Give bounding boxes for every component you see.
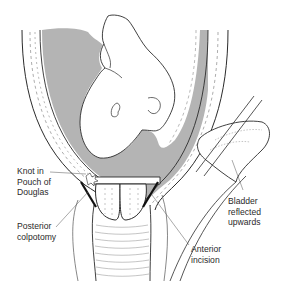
leader-posterior (56, 192, 88, 227)
outer-pelvis-right (162, 195, 168, 281)
cervix-right-lobe (120, 184, 146, 220)
vaginal-rugae (95, 225, 149, 276)
vagina-right-wall (150, 205, 151, 281)
label-posterior-colpotomy: Posterior colpotomy (17, 221, 56, 242)
outer-pelvis-left (73, 200, 78, 281)
leader-knot (50, 172, 86, 174)
leader-anterior (152, 195, 189, 245)
cervix-left-lobe (96, 184, 120, 220)
label-anterior-incision: Anterior incision (191, 244, 221, 265)
medical-diagram: Knot in Pouch of Douglas Posterior colpo… (0, 0, 284, 281)
bladder (198, 121, 270, 182)
anterior-vaginal-wall (170, 176, 246, 281)
fetus-body (80, 15, 175, 158)
label-knot-in-pouch-of-douglas: Knot in Pouch of Douglas (17, 166, 51, 198)
suture-band (92, 177, 160, 184)
vagina-left-wall (92, 205, 96, 281)
label-bladder-reflected-upwards: Bladder reflected upwards (228, 196, 261, 228)
